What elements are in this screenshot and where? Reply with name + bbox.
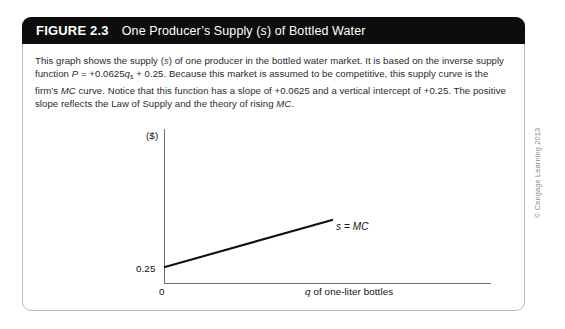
origin-label: 0 [159,286,165,297]
y-axis-units-label: ($) [146,130,158,141]
supply-curve-annotation: s = MC [336,221,369,232]
caption-italic-mc-2: MC [276,98,291,109]
copyright-credit: © Cengage Learning 2013 [533,128,542,218]
caption-italic-mc-1: MC [61,85,76,96]
figure-title-suffix: ) of Bottled Water [267,24,366,38]
x-axis-title-rest: of one-liter bottles [311,286,394,297]
x-axis-title: q of one-liter bottles [305,286,393,297]
x-axis-title-italic-q: q [305,286,311,297]
figure-caption: This graph shows the supply (s) of one p… [35,54,511,111]
supply-curve-line [165,220,332,267]
caption-part-1: This graph shows the supply ( [35,55,164,66]
figure-number-label: FIGURE 2.3 [36,23,109,38]
figure-title-prefix: One Producer’s Supply ( [122,24,261,38]
caption-part-3: = +0.0625 [78,68,124,79]
caption-part-6: . [291,98,294,109]
figure-box: FIGURE 2.3 One Producer’s Supply (s) of … [22,17,525,311]
y-axis-tick-025: 0.25 [136,263,155,274]
caption-part-5: curve. Notice that this function has a s… [35,85,506,109]
figure-header-bar: FIGURE 2.3 One Producer’s Supply (s) of … [22,17,525,44]
figure-title: One Producer’s Supply (s) of Bottled Wat… [122,24,366,38]
